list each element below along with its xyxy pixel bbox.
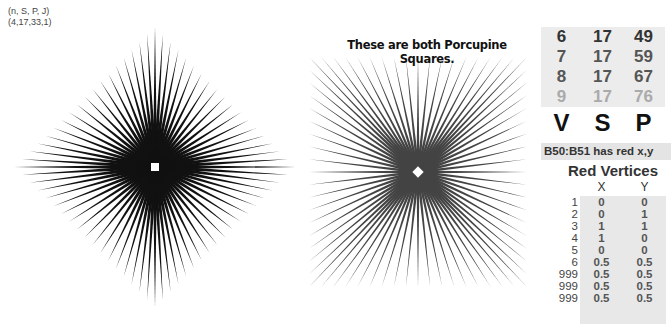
table-row: 9990.50.5 bbox=[548, 280, 666, 292]
x-cell[interactable]: 0 bbox=[580, 244, 623, 256]
x-cell[interactable]: 0 bbox=[580, 208, 623, 220]
table-row: 410 bbox=[548, 232, 666, 244]
x-cell[interactable]: 0.5 bbox=[580, 280, 623, 292]
s-cell[interactable]: 17 bbox=[582, 27, 623, 47]
row-index: 999 bbox=[548, 280, 580, 292]
y-cell[interactable]: 0.5 bbox=[623, 268, 666, 280]
y-cell[interactable]: 0.5 bbox=[623, 256, 666, 268]
y-cell[interactable]: 0 bbox=[623, 232, 666, 244]
vsp-row: 8 17 67 bbox=[541, 67, 665, 87]
table-row: 9990.50.5 bbox=[548, 292, 666, 304]
y-cell[interactable]: 1 bbox=[623, 220, 666, 232]
row-index: 4 bbox=[548, 232, 580, 244]
figure-caption: These are both Porcupine Squares. bbox=[322, 38, 532, 66]
row-index: 3 bbox=[548, 220, 580, 232]
vsp-row: 6 17 49 bbox=[541, 27, 665, 47]
table-row: 60.50.5 bbox=[548, 256, 666, 268]
v-cell[interactable]: 7 bbox=[541, 47, 582, 67]
header-v: V bbox=[541, 109, 582, 137]
vsp-headers: V S P bbox=[541, 109, 665, 137]
vsp-table: 6 17 49 7 17 59 8 17 67 9 17 76 bbox=[541, 27, 665, 107]
x-cell[interactable]: 0.5 bbox=[580, 268, 623, 280]
red-vertices-title: Red Vertices bbox=[560, 162, 666, 179]
p-cell[interactable]: 49 bbox=[623, 27, 664, 47]
x-cell[interactable]: 0.5 bbox=[580, 292, 623, 304]
table-row: 9990.50.5 bbox=[548, 268, 666, 280]
y-cell[interactable]: 1 bbox=[623, 208, 666, 220]
table-row: 100 bbox=[548, 196, 666, 208]
x-cell[interactable]: 1 bbox=[580, 232, 623, 244]
vsp-row: 7 17 59 bbox=[541, 47, 665, 67]
porcupine-square-figure bbox=[309, 57, 527, 287]
x-cell[interactable]: 0.5 bbox=[580, 256, 623, 268]
table-row: 201 bbox=[548, 208, 666, 220]
v-cell[interactable]: 6 bbox=[541, 27, 582, 47]
row-index: 2 bbox=[548, 208, 580, 220]
red-vertices-header: X Y bbox=[580, 180, 666, 194]
x-cell[interactable]: 1 bbox=[580, 220, 623, 232]
v-cell[interactable]: 8 bbox=[541, 67, 582, 87]
s-cell[interactable]: 17 bbox=[582, 67, 623, 87]
column-y-header: Y bbox=[623, 180, 666, 194]
row-index: 1 bbox=[548, 196, 580, 208]
column-x-header: X bbox=[580, 180, 623, 194]
table-row: 500 bbox=[548, 244, 666, 256]
s-cell[interactable]: 17 bbox=[582, 47, 623, 67]
row-index: 999 bbox=[548, 292, 580, 304]
y-cell[interactable]: 0 bbox=[623, 196, 666, 208]
y-cell[interactable]: 0.5 bbox=[623, 280, 666, 292]
porcupine-diamond-figure bbox=[14, 26, 296, 308]
x-cell[interactable]: 0 bbox=[580, 196, 623, 208]
header-p: P bbox=[623, 109, 664, 137]
y-cell[interactable]: 0 bbox=[623, 244, 666, 256]
row-index: 5 bbox=[548, 244, 580, 256]
p-cell[interactable]: 76 bbox=[623, 87, 664, 107]
p-cell[interactable]: 59 bbox=[623, 47, 664, 67]
y-cell[interactable]: 0.5 bbox=[623, 292, 666, 304]
red-vertices-table: 100 201 311 410 500 60.50.5 9990.50.5 99… bbox=[548, 196, 666, 304]
table-row: 311 bbox=[548, 220, 666, 232]
red-xy-note: B50:B51 has red x,y bbox=[541, 143, 671, 160]
v-cell[interactable]: 9 bbox=[541, 87, 582, 107]
row-index: 6 bbox=[548, 256, 580, 268]
header-s: S bbox=[582, 109, 623, 137]
center-hole bbox=[151, 163, 159, 171]
row-index: 999 bbox=[548, 268, 580, 280]
p-cell[interactable]: 67 bbox=[623, 67, 664, 87]
vsp-row: 9 17 76 bbox=[541, 87, 665, 107]
s-cell[interactable]: 17 bbox=[582, 87, 623, 107]
